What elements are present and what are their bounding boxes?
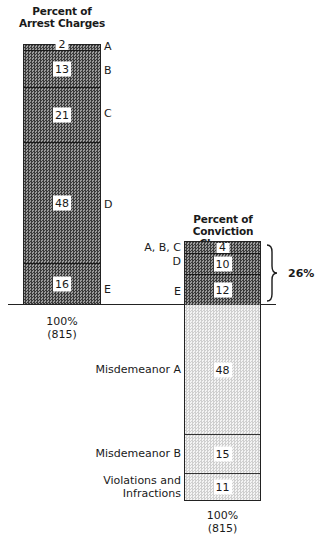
conviction-label-violations-line2: Infractions xyxy=(103,487,181,500)
arrest-title-line2: Arrest Charges xyxy=(8,17,116,29)
arrest-total-n: (815) xyxy=(23,328,101,341)
conviction-label-d: D xyxy=(173,255,181,268)
bracket-percentage: 26% xyxy=(288,267,314,280)
conviction-total: 100% (815) xyxy=(184,509,261,535)
conviction-value-misdemeanor-b: 15 xyxy=(214,447,232,462)
arrest-label-b: B xyxy=(104,64,112,77)
conviction-value-d: 10 xyxy=(214,257,232,272)
conviction-label-misdemeanor-a: Misdemeanor A xyxy=(96,363,182,376)
arrest-value-d: 48 xyxy=(53,196,71,211)
conviction-label-violations-line1: Violations and xyxy=(103,474,181,487)
arrest-segment-e: 16 xyxy=(24,263,100,304)
conviction-label-e: E xyxy=(174,285,181,298)
conviction-charges-bar: 4 10 12 48 15 11 xyxy=(184,241,261,501)
conviction-title-line1: Percent of xyxy=(168,213,278,225)
arrest-label-a: A xyxy=(104,40,112,53)
arrest-segment-b: 13 xyxy=(24,50,100,87)
arrest-label-d: D xyxy=(104,198,112,211)
arrest-label-e: E xyxy=(104,283,111,296)
conviction-label-violations: Violations and Infractions xyxy=(103,474,181,500)
conviction-segment-misdemeanor-b: 15 xyxy=(185,434,260,473)
arrest-segment-d: 48 xyxy=(24,142,100,263)
arrest-total: 100% (815) xyxy=(23,315,101,341)
conviction-label-misdemeanor-b: Misdemeanor B xyxy=(95,447,181,460)
conviction-value-e: 12 xyxy=(214,283,232,298)
conviction-segment-abc: 4 xyxy=(185,242,260,253)
conviction-segment-e: 12 xyxy=(185,274,260,305)
brace-icon xyxy=(264,244,280,302)
conviction-segment-misdemeanor-a: 48 xyxy=(185,305,260,434)
conviction-total-pct: 100% xyxy=(184,509,261,522)
arrest-value-e: 16 xyxy=(53,277,71,292)
arrest-segment-c: 21 xyxy=(24,87,100,142)
conviction-value-misdemeanor-a: 48 xyxy=(214,362,232,377)
arrest-charges-bar: 2 13 21 48 16 xyxy=(23,44,101,305)
conviction-total-n: (815) xyxy=(184,522,261,535)
arrest-value-b: 13 xyxy=(53,62,71,77)
conviction-label-abc: A, B, C xyxy=(144,241,181,254)
conviction-segment-violations: 11 xyxy=(185,473,260,500)
arrest-bar-title: Percent of Arrest Charges xyxy=(8,5,116,29)
conviction-segment-d: 10 xyxy=(185,253,260,274)
arrest-total-pct: 100% xyxy=(23,315,101,328)
arrest-title-line1: Percent of xyxy=(8,5,116,17)
arrest-label-c: C xyxy=(104,107,112,120)
conviction-value-violations: 11 xyxy=(214,480,232,495)
arrest-value-a: 2 xyxy=(56,39,69,50)
conviction-value-abc: 4 xyxy=(216,243,229,253)
arrest-value-c: 21 xyxy=(53,108,71,123)
